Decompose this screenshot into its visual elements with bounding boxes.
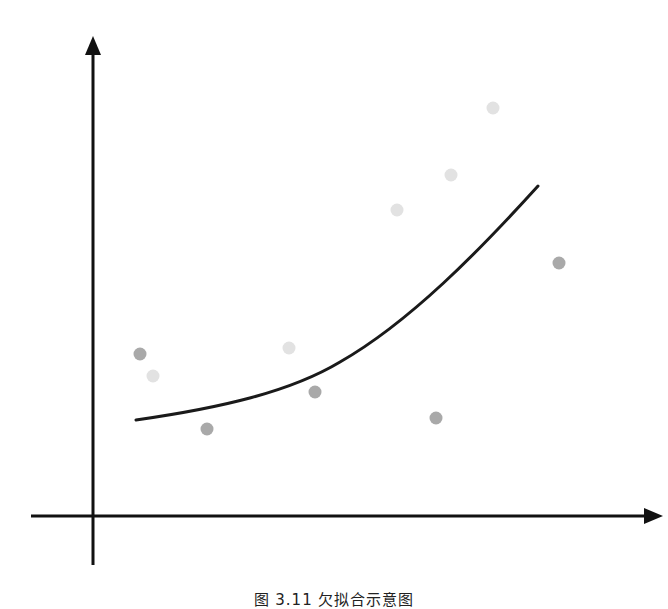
- data-point: [283, 342, 296, 355]
- data-point: [430, 412, 443, 425]
- figure-caption: 图 3.11 欠拟合示意图: [0, 588, 668, 609]
- x-axis-arrow-icon: [644, 508, 663, 524]
- data-point: [134, 348, 147, 361]
- data-point: [201, 423, 214, 436]
- data-point: [391, 204, 404, 217]
- data-point: [309, 386, 322, 399]
- y-axis-arrow-icon: [85, 36, 101, 55]
- x-axis: [31, 508, 663, 524]
- data-point: [147, 370, 160, 383]
- data-points: [134, 102, 566, 436]
- data-point: [553, 257, 566, 270]
- data-point: [445, 169, 458, 182]
- fitted-curve: [136, 186, 538, 420]
- y-axis: [85, 36, 101, 565]
- data-point: [487, 102, 500, 115]
